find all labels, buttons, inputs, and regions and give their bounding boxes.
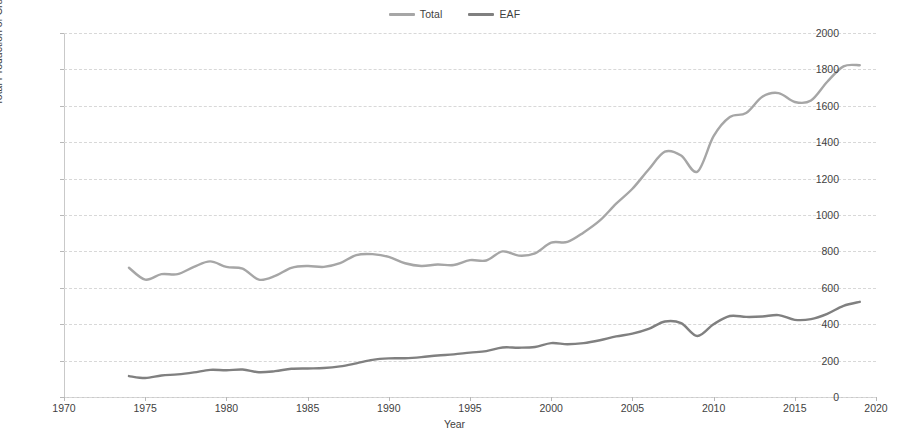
x-tick-label-2010: 2010: [702, 402, 725, 414]
legend-label-total: Total: [420, 8, 443, 20]
x-tick-label-2020: 2020: [864, 402, 887, 414]
y-tick-label-2000: 2000: [799, 27, 839, 39]
x-tick-mark-2015: [795, 397, 796, 401]
crude-steel-production-chart: Total EAF 020040060080010001200140016001…: [0, 0, 909, 433]
series-line-eaf: [129, 302, 860, 378]
y-axis-title: Total Production of Crude Steel, mln ton…: [0, 0, 4, 120]
plot-area: [64, 33, 876, 397]
x-tick-mark-1995: [470, 397, 471, 401]
legend-entry-total[interactable]: Total: [389, 8, 443, 20]
y-tick-label-1200: 1200: [799, 173, 839, 185]
legend-label-eaf: EAF: [499, 8, 520, 20]
y-tick-label-1000: 1000: [799, 209, 839, 221]
x-tick-label-1975: 1975: [134, 402, 157, 414]
series-layer: [64, 33, 876, 397]
x-tick-label-2015: 2015: [783, 402, 806, 414]
legend-entry-eaf[interactable]: EAF: [468, 8, 520, 20]
y-tick-label-400: 400: [799, 318, 839, 330]
x-tick-mark-1985: [308, 397, 309, 401]
x-tick-mark-2000: [551, 397, 552, 401]
x-tick-mark-2020: [876, 397, 877, 401]
x-tick-mark-2005: [632, 397, 633, 401]
x-tick-label-1980: 1980: [215, 402, 238, 414]
y-tick-label-1400: 1400: [799, 136, 839, 148]
legend-line-marker-eaf: [468, 13, 494, 16]
x-tick-label-1995: 1995: [458, 402, 481, 414]
series-line-total: [129, 65, 860, 280]
chart-legend: Total EAF: [0, 4, 909, 24]
x-axis-title: Year: [0, 418, 909, 430]
y-tick-label-1800: 1800: [799, 63, 839, 75]
x-tick-mark-1970: [64, 397, 65, 401]
y-tick-label-1600: 1600: [799, 100, 839, 112]
y-tick-label-200: 200: [799, 355, 839, 367]
x-tick-mark-1980: [226, 397, 227, 401]
x-tick-mark-1975: [145, 397, 146, 401]
x-tick-label-1970: 1970: [52, 402, 75, 414]
y-tick-label-800: 800: [799, 245, 839, 257]
x-tick-label-2000: 2000: [540, 402, 563, 414]
x-tick-label-2005: 2005: [621, 402, 644, 414]
x-tick-mark-1990: [389, 397, 390, 401]
x-tick-mark-2010: [714, 397, 715, 401]
legend-line-marker-total: [389, 13, 415, 16]
x-tick-label-1990: 1990: [377, 402, 400, 414]
y-tick-label-600: 600: [799, 282, 839, 294]
x-tick-label-1985: 1985: [296, 402, 319, 414]
